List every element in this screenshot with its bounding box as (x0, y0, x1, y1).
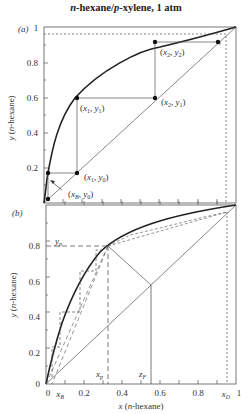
svg-text:0.8: 0.8 (27, 58, 39, 68)
svg-text:0.4: 0.4 (29, 312, 41, 322)
y-axis-label-a: y (n-hexane) (6, 95, 16, 141)
zF-label: zF (138, 369, 147, 380)
point-xB-y0: (xB, y0) (68, 189, 93, 200)
svg-text:1: 1 (237, 388, 242, 398)
panel-a-label: (a) (18, 24, 29, 34)
point-x1-y1: (x1, y1) (80, 103, 105, 114)
svg-text:0.2: 0.2 (27, 163, 38, 173)
svg-text:0.8: 0.8 (29, 241, 41, 251)
svg-text:xD: xD (221, 389, 231, 400)
point-x1-y0: (x1, y0) (84, 172, 109, 183)
mccabe-thiele-diagram: (a) 1 0.8 0.6 0.4 0.2 y (n-hexane) (x2, … (0, 0, 252, 414)
x-axis-label: x (n-hexane) (117, 401, 163, 411)
point-x2-y1: (x2, y1) (161, 97, 186, 108)
svg-text:0.2: 0.2 (78, 388, 89, 398)
svg-text:0.8: 0.8 (192, 388, 204, 398)
svg-text:0.4: 0.4 (27, 128, 39, 138)
xp-label: xp (95, 369, 103, 380)
svg-text:0.4: 0.4 (116, 388, 128, 398)
svg-text:0: 0 (36, 379, 41, 389)
panel-b-label: (b) (12, 208, 23, 218)
panel-a: (a) 1 0.8 0.6 0.4 0.2 y (n-hexane) (x2, … (6, 23, 236, 203)
panel-b: (b) 0.8 0.6 0.4 0.2 0 y (n-hexane) 0 xB … (8, 201, 241, 411)
svg-text:0.6: 0.6 (154, 388, 166, 398)
svg-text:0.6: 0.6 (29, 277, 41, 287)
point-x2-y2: (x2, y2) (160, 47, 185, 58)
svg-text:1: 1 (34, 23, 39, 33)
svg-text:0: 0 (46, 388, 51, 398)
svg-text:0.2: 0.2 (29, 348, 40, 358)
svg-text:xB: xB (55, 389, 64, 400)
yp-label: yp (54, 236, 62, 247)
y-axis-label-b: y (n-hexane) (8, 272, 18, 318)
svg-text:0.6: 0.6 (27, 93, 39, 103)
